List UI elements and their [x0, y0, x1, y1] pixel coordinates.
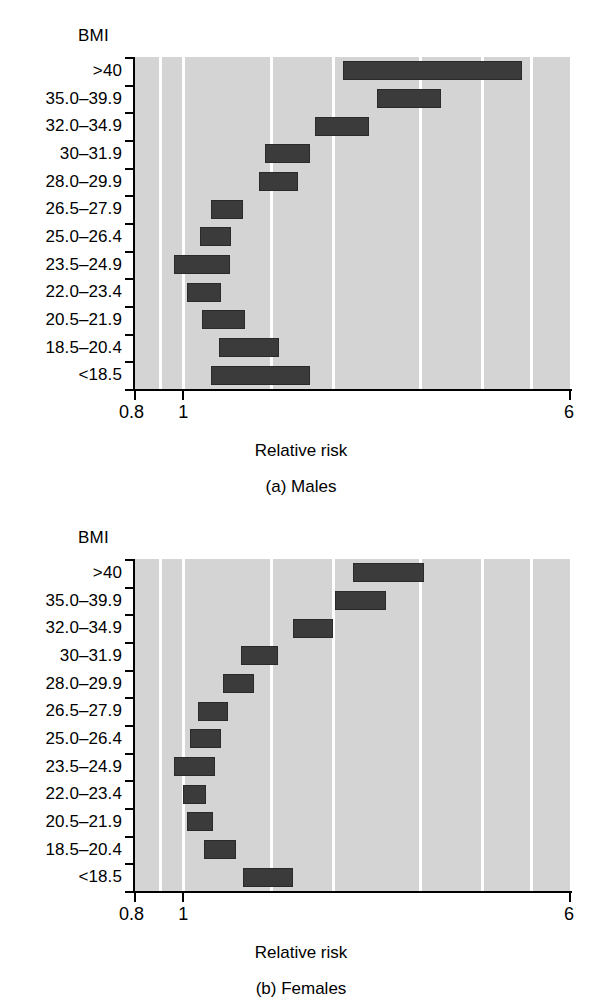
bmi-axis-title: BMI [78, 528, 109, 548]
y-axis-tick [125, 808, 134, 810]
y-axis-label: 28.0–29.9 [45, 674, 122, 694]
panel-caption: (a) Males [0, 477, 602, 497]
gridline [481, 559, 484, 891]
y-axis-label: 30–31.9 [60, 144, 122, 164]
y-axis-tick [125, 836, 134, 838]
y-axis-tick [125, 587, 134, 589]
gridline [270, 559, 273, 891]
y-axis-tick [125, 614, 134, 616]
bmi-axis-title: BMI [78, 26, 109, 46]
x-axis-tick [182, 391, 184, 400]
ci-bar [243, 868, 292, 887]
gridline [182, 559, 185, 891]
x-axis-tick-label: 6 [564, 402, 574, 423]
panel-caption: (b) Females [0, 979, 602, 999]
chart-panel-males: BMI>4035.0–39.932.0–34.930–31.928.0–29.9… [0, 0, 602, 500]
y-axis-label: 35.0–39.9 [45, 89, 122, 109]
ci-bar [198, 702, 228, 721]
ci-bar [187, 283, 220, 302]
y-axis-tick [125, 389, 134, 391]
y-axis-tick [125, 195, 134, 197]
y-axis-label: 35.0–39.9 [45, 591, 122, 611]
y-axis-label: 22.0–23.4 [45, 784, 122, 804]
y-axis-label: 20.5–21.9 [45, 310, 122, 330]
x-axis-tick [182, 893, 184, 902]
x-axis-line [133, 891, 572, 893]
y-axis-label: 18.5–20.4 [45, 338, 122, 358]
y-axis-tick [125, 697, 134, 699]
x-axis-tick [569, 893, 571, 902]
ci-bar [265, 144, 310, 163]
y-axis-label: 32.0–34.9 [45, 618, 122, 638]
plot-area [135, 559, 570, 891]
x-axis-tick [134, 893, 136, 902]
y-axis-tick [125, 85, 134, 87]
y-axis-label: 25.0–26.4 [45, 729, 122, 749]
y-axis-tick [125, 306, 134, 308]
ci-bar [190, 729, 221, 748]
gridline [159, 57, 162, 389]
y-axis-tick [125, 891, 134, 893]
ci-bar [293, 619, 333, 638]
y-axis-label: >40 [93, 61, 122, 81]
x-axis-caption: Relative risk [0, 441, 602, 461]
ci-bar [315, 117, 370, 136]
y-axis-tick [125, 361, 134, 363]
ci-bar [343, 61, 521, 80]
y-axis-tick [125, 112, 134, 114]
ci-bar [211, 200, 243, 219]
y-axis-label: 26.5–27.9 [45, 701, 122, 721]
gridline [530, 559, 533, 891]
y-axis-label: <18.5 [78, 365, 122, 385]
ci-bar [259, 172, 298, 191]
y-axis-label: 22.0–23.4 [45, 282, 122, 302]
x-axis-tick [134, 391, 136, 400]
y-axis-label: 32.0–34.9 [45, 116, 122, 136]
y-axis-tick [125, 780, 134, 782]
y-axis-label: 26.5–27.9 [45, 199, 122, 219]
ci-bar [174, 255, 229, 274]
x-axis-tick-label: 0.8 [119, 904, 144, 925]
y-axis-tick [125, 168, 134, 170]
x-axis-tick-label: 0.8 [119, 402, 144, 423]
chart-panel-females: BMI>4035.0–39.932.0–34.930–31.928.0–29.9… [0, 502, 602, 1002]
x-axis-caption: Relative risk [0, 943, 602, 963]
y-axis-label: 23.5–24.9 [45, 255, 122, 275]
x-axis-tick-label: 6 [564, 904, 574, 925]
ci-bar [202, 310, 245, 329]
ci-bar [353, 563, 424, 582]
gridline [481, 57, 484, 389]
y-axis-tick [125, 223, 134, 225]
ci-bar [219, 338, 279, 357]
y-axis-label: <18.5 [78, 867, 122, 887]
y-axis-label: >40 [93, 563, 122, 583]
y-axis-tick [125, 559, 134, 561]
ci-bar [200, 227, 232, 246]
y-axis-label: 18.5–20.4 [45, 840, 122, 860]
y-axis-label: 23.5–24.9 [45, 757, 122, 777]
y-axis-tick [125, 753, 134, 755]
y-axis-tick [125, 57, 134, 59]
figure-root: BMI>4035.0–39.932.0–34.930–31.928.0–29.9… [0, 0, 602, 1005]
ci-bar [174, 757, 215, 776]
gridline [332, 57, 335, 389]
ci-bar [241, 646, 277, 665]
y-axis-label: 25.0–26.4 [45, 227, 122, 247]
gridline [419, 559, 422, 891]
ci-bar [204, 840, 237, 859]
y-axis-label: 30–31.9 [60, 646, 122, 666]
y-axis-tick [125, 278, 134, 280]
gridline [159, 559, 162, 891]
ci-bar [211, 366, 310, 385]
y-axis-tick [125, 670, 134, 672]
gridline [530, 57, 533, 389]
ci-bar [187, 812, 213, 831]
plot-area [135, 57, 570, 389]
x-axis-tick-label: 1 [178, 402, 188, 423]
y-axis-tick [125, 251, 134, 253]
y-axis-tick [125, 863, 134, 865]
y-axis-label: 28.0–29.9 [45, 172, 122, 192]
y-axis-tick [125, 725, 134, 727]
y-axis-tick [125, 140, 134, 142]
y-axis-tick [125, 334, 134, 336]
